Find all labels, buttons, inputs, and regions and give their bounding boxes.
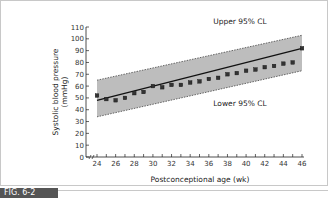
data-point: [114, 98, 118, 102]
x-tick-label: 26: [111, 160, 120, 168]
upper-cl-label: Upper 95% CL: [213, 17, 267, 26]
data-point: [272, 64, 276, 68]
data-point: [282, 62, 286, 66]
y-tick-label: 40: [75, 106, 84, 114]
x-tick-label: 42: [260, 160, 269, 168]
y-tick-label: 30: [75, 118, 84, 126]
x-tick-label: 44: [279, 160, 288, 168]
y-tick-label: 20: [75, 130, 84, 138]
data-point: [207, 77, 211, 81]
y-axis-label-line2: (mmHg): [60, 76, 69, 107]
y-tick-label: 110: [71, 24, 84, 32]
x-tick-label: 38: [223, 160, 232, 168]
data-point: [123, 96, 127, 100]
x-tick-label: 40: [242, 160, 251, 168]
data-point: [254, 68, 258, 72]
data-point: [160, 85, 164, 89]
bp-chart: 0102030405060708090100110242628303234363…: [0, 0, 330, 186]
y-tick-label: 0: [80, 154, 84, 162]
figure-caption-label: FIG. 6-2: [0, 188, 58, 198]
x-tick-label: 24: [93, 160, 102, 168]
caption-rule: [58, 190, 328, 191]
confidence-band: [97, 35, 302, 117]
data-point: [142, 90, 146, 94]
y-tick-label: 60: [75, 83, 84, 91]
ci-band-fill: [97, 35, 302, 117]
y-axis-label-line1: Systolic blood pressure: [51, 48, 60, 135]
y-tick-label: 10: [75, 142, 84, 150]
x-tick-label: 46: [298, 160, 307, 168]
x-axis-label: Postconceptional age (wk): [151, 175, 250, 184]
x-tick-label: 30: [148, 160, 157, 168]
y-tick-label: 50: [75, 94, 84, 102]
data-point: [95, 94, 99, 98]
data-point: [105, 97, 109, 101]
lower-cl-label: Lower 95% CL: [213, 99, 267, 108]
data-point: [132, 91, 136, 95]
data-point: [188, 81, 192, 85]
y-tick-label: 70: [75, 71, 84, 79]
x-tick-label: 28: [130, 160, 139, 168]
data-point: [170, 83, 174, 87]
y-tick-label: 90: [75, 47, 84, 55]
data-point: [179, 83, 183, 87]
data-point: [198, 80, 202, 84]
data-point: [151, 84, 155, 88]
x-tick-label: 32: [167, 160, 176, 168]
data-point: [235, 71, 239, 75]
data-point: [244, 69, 248, 73]
data-point: [216, 76, 220, 80]
x-tick-label: 36: [204, 160, 213, 168]
x-tick-label: 34: [186, 160, 195, 168]
data-point: [263, 65, 267, 69]
data-point: [291, 61, 295, 65]
data-point: [226, 72, 230, 76]
y-tick-label: 100: [71, 35, 84, 43]
y-tick-label: 80: [75, 59, 84, 67]
data-point: [300, 46, 304, 50]
